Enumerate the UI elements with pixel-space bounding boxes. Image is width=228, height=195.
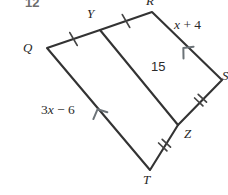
vertex-label-Z: Z: [184, 127, 191, 140]
vertex-label-S: S: [222, 69, 228, 82]
vertex-label-Y: Y: [87, 7, 94, 20]
outer-quadrilateral-path: [47, 12, 222, 170]
measure-label-15: 15: [151, 60, 165, 73]
measure-label-x-plus-4: x + 4: [174, 18, 201, 32]
measure-label-3x-minus-6: 3x − 6: [41, 103, 75, 117]
geometry-figure: 12 Q Y R: [0, 0, 228, 195]
vertex-label-Q: Q: [23, 41, 32, 54]
vertex-label-R: R: [146, 0, 154, 7]
segment-YZ-path: [100, 30, 178, 125]
vertex-label-T: T: [143, 173, 150, 186]
